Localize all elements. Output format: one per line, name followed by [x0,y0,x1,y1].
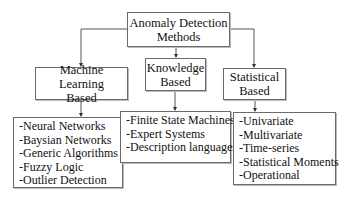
knowledge-node: Knowledge Based [145,58,206,91]
list-item: -Description languages [126,141,230,155]
statistical-methods-list: -Univariate -Multivariate -Time-series -… [233,112,336,185]
ml-title-line2: Based [66,91,97,105]
root-node: Anomaly Detection Methods [127,12,230,47]
knowledge-title-line1: Knowledge [147,61,205,75]
list-item: -Fuzzy Logic [19,161,122,175]
list-item: -Operational [239,169,335,183]
root-title-line2: Methods [157,30,201,44]
knowledge-title-line2: Based [160,75,191,89]
statistical-title-line2: Based [239,84,270,98]
list-item: -Multivariate [239,129,335,143]
list-item: -Univariate [239,115,335,129]
list-item: -Outlier Detection [19,174,122,188]
list-item: -Expert Systems [126,128,230,142]
list-item: -Neural Networks [19,120,122,134]
statistical-title-line1: Statistical [230,70,279,84]
statistical-node: Statistical Based [223,68,286,100]
ml-title-line1: Machine Learning [36,63,127,91]
ml-methods-list: -Neural Networks -Baysian Networks -Gene… [13,117,123,188]
list-item: -Time-series [239,142,335,156]
list-item: -Statistical Moments [239,156,335,170]
machine-learning-node: Machine Learning Based [35,67,128,100]
knowledge-methods-list: -Finite State Machines -Expert Systems -… [120,111,231,163]
root-title-line1: Anomaly Detection [129,16,227,30]
list-item: -Finite State Machines [126,114,230,128]
list-item: -Generic Algorithms [19,147,122,161]
list-item: -Baysian Networks [19,134,122,148]
